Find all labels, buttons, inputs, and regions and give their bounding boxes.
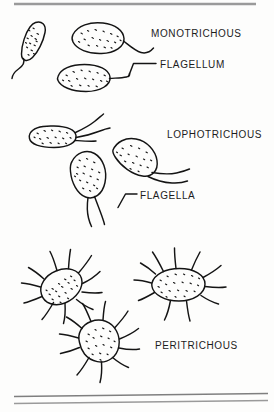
cytoplasm-granules [63,70,108,87]
cell-body [29,126,76,148]
lophotrichous-cell-2 [113,139,190,184]
cytoplasm-granules [79,30,122,49]
monotrichous-cell-2 [72,23,153,54]
lophotrichous-cell-1 [29,114,110,148]
flagellum [12,59,24,79]
cytoplasm-granules [34,130,71,144]
monotrichous-group [12,22,156,92]
monotrichous-cell-1 [12,22,45,79]
cell-body [113,139,157,177]
cell-body [72,23,124,54]
flagella [134,248,226,321]
flagella [60,302,140,383]
cell-body [79,320,119,362]
flagella-tuft [87,197,104,227]
flagella-tuft [76,114,111,141]
cytoplasm-granules [158,274,200,297]
label-monotrichous: MONOTRICHOUS [151,28,242,39]
bottom-rule-lower [14,401,268,404]
figure-root: MONOTRICHOUS FLAGELLUM LOPHOTRICHOUS FLA… [0,0,274,412]
label-flagella: FLAGELLA [140,190,195,201]
cell-body [58,65,111,92]
label-peritrichous: PERITRICHOUS [155,340,238,351]
label-flagellum: FLAGELLUM [160,59,225,70]
flagellum [124,41,154,53]
cytoplasm-granules [75,159,100,192]
cytoplasm-granules [117,146,152,172]
flagella-leader-line [118,194,137,208]
cytoplasm-granules [86,328,115,360]
bottom-rule-upper [14,394,268,397]
peritrichous-group [22,248,227,383]
lophotrichous-cell-3 [70,152,105,227]
peritrichous-cell-1 [22,250,103,324]
flagellum [110,74,130,79]
flagellum-leader-line [129,64,157,77]
peritrichous-cell-2 [134,248,226,321]
cell-body [70,152,105,198]
label-lophotrichous: LOPHOTRICHOUS [167,129,262,140]
monotrichous-cell-3 [58,65,130,92]
peritrichous-cell-3 [60,302,140,383]
lophotrichous-group [29,114,189,227]
